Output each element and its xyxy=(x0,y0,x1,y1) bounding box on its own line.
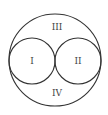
region-label-iv: IV xyxy=(52,88,63,98)
region-label-ii: II xyxy=(74,56,82,66)
region-label-i: I xyxy=(30,56,34,66)
region-diagram: I II III IV xyxy=(0,0,108,115)
region-label-iii: III xyxy=(52,22,63,32)
